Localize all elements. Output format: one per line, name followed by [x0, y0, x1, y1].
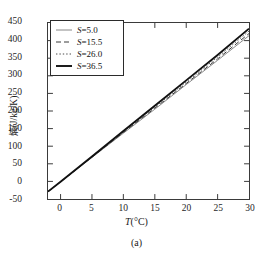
chart-legend: S=5.0 S=15.5 S=26.0 S=36.5	[50, 20, 124, 76]
legend-value: 36.5	[87, 61, 103, 71]
legend-symbol: S	[77, 37, 82, 47]
x-axis-ticks	[61, 194, 218, 199]
legend-symbol: S	[77, 25, 82, 35]
legend-swatch-icon	[55, 49, 73, 59]
legend-item: S=5.0	[55, 24, 120, 36]
legend-item: S=15.5	[55, 36, 120, 48]
x-tick-label: 5	[76, 203, 106, 213]
legend-symbol: S	[77, 61, 82, 71]
legend-symbol: S	[77, 49, 82, 59]
x-tick-label: 25	[203, 203, 233, 213]
y-tick-label: 450	[0, 17, 22, 27]
legend-label: S=26.0	[77, 50, 102, 59]
y-tick-label: 0	[0, 177, 22, 187]
legend-swatch-icon	[55, 25, 73, 35]
y-tick-label: -50	[0, 195, 22, 205]
y-axis-label: 熵(J/kg/K)	[9, 73, 19, 159]
x-tick-label: 0	[45, 203, 75, 213]
y-axis-ticks-right	[244, 41, 249, 182]
x-tick-label: 20	[172, 203, 202, 213]
y-tick-label: 350	[0, 53, 22, 63]
y-tick-label: 50	[0, 160, 22, 170]
legend-value: 26.0	[87, 49, 103, 59]
legend-label: S=15.5	[77, 38, 102, 47]
figure-caption: (a)	[0, 237, 273, 248]
x-tick-label: 30	[235, 203, 265, 213]
legend-label: S=5.0	[77, 26, 98, 35]
y-axis-label-unit: (J/kg/K)	[9, 96, 19, 128]
x-axis-label: T(°C)	[0, 216, 273, 227]
legend-item: S=26.0	[55, 48, 120, 60]
figure-panel: 450 400 350 300 250 200 150 100 50 0 -50…	[0, 0, 273, 260]
legend-item: S=36.5	[55, 60, 120, 72]
y-tick-label: 400	[0, 35, 22, 45]
legend-value: 15.5	[87, 37, 103, 47]
legend-label: S=36.5	[77, 62, 102, 71]
legend-swatch-icon	[55, 37, 73, 47]
x-tick-label: 15	[140, 203, 170, 213]
y-axis-label-symbol: 熵	[9, 127, 19, 136]
legend-swatch-icon	[55, 61, 73, 71]
x-tick-label: 10	[108, 203, 138, 213]
x-axis-label-unit: (°C)	[131, 216, 148, 227]
legend-value: 5.0	[87, 25, 98, 35]
